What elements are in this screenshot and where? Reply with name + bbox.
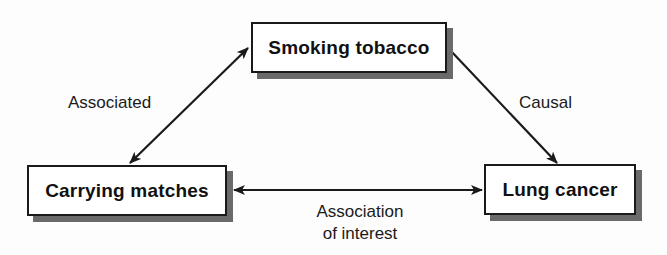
node-lung-cancer: Lung cancer [484,164,636,215]
causal-diagram: Smoking tobacco Carrying matches Lung ca… [0,0,667,255]
node-smoking-tobacco: Smoking tobacco [251,22,447,73]
edge-label-line1: Association [290,201,430,223]
node-carrying-matches-label: Carrying matches [45,180,209,202]
edge-label-line2: of interest [290,223,430,245]
edge-label-associated: Associated [68,92,151,114]
node-lung-cancer-label: Lung cancer [502,179,617,201]
node-smoking-tobacco-label: Smoking tobacco [268,37,429,59]
edge-label-association-of-interest: Association of interest [290,201,430,245]
node-carrying-matches: Carrying matches [27,165,227,216]
edge-label-causal: Causal [519,92,572,114]
